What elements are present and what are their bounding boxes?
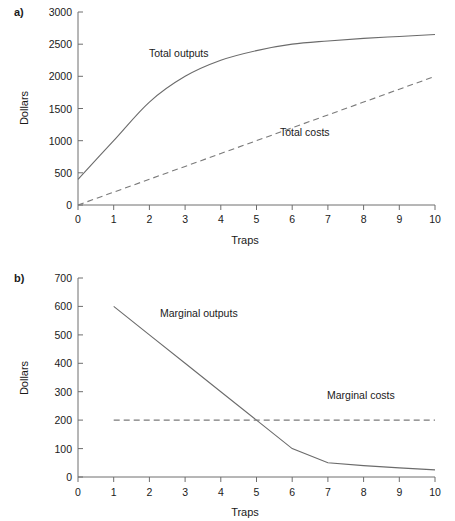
panel-a-xtick-0: 0 [75,213,81,225]
annotation-marginal-outputs: Marginal outputs [160,307,238,319]
panel-b-xtick-0: 0 [75,486,81,498]
panel-a-xtick-4: 4 [218,213,224,225]
panel-b-xtick-6: 6 [289,486,295,498]
panel-a-xtick-7: 7 [325,213,331,225]
panel-a-xtick-1: 1 [111,213,117,225]
panel-a-ytick-6: 0 [66,199,72,211]
panel-b-x-ticks [78,477,435,482]
panel-a-xtick-5: 5 [254,213,260,225]
panel-b-x-axis-title: Traps [231,506,259,518]
panel-a-xtick-10: 10 [429,213,441,225]
panel-b-ytick-6: 100 [54,443,72,455]
panel-b-xtick-9: 9 [396,486,402,498]
panel-a-xtick-8: 8 [361,213,367,225]
panel-b-xtick-7: 7 [325,486,331,498]
panel-b-y-axis-title: Dollars [18,360,30,395]
panel-b-ytick-4: 300 [54,386,72,398]
panel-b-ytick-1: 600 [54,300,72,312]
panel-b-x-tick-labels: 0 1 2 3 4 5 6 7 8 9 10 [75,486,441,498]
series-total-outputs [78,35,435,180]
panel-b-ytick-0: 700 [54,272,72,284]
chart-panel-a: a) 3000 2500 2000 1500 1000 [0,0,455,260]
panel-a-xtick-6: 6 [289,213,295,225]
panel-a-xtick-9: 9 [396,213,402,225]
figure-container: a) 3000 2500 2000 1500 1000 [0,0,455,521]
panel-a-x-tick-labels: 0 1 2 3 4 5 6 7 8 9 10 [75,213,441,225]
panel-b-xtick-8: 8 [361,486,367,498]
panel-b-ytick-5: 200 [54,414,72,426]
panel-b-y-tick-labels: 700 600 500 400 300 200 100 0 [54,272,72,483]
annotation-total-outputs: Total outputs [149,47,209,59]
panel-b-y-ticks [78,278,83,477]
panel-a-y-tick-labels: 3000 2500 2000 1500 1000 500 0 [49,6,73,211]
chart-panel-b: b) 700 600 500 400 300 [0,260,455,521]
panel-a-ytick-0: 3000 [49,6,73,18]
panel-a-plot: 3000 2500 2000 1500 1000 500 0 [0,0,455,260]
panel-b-xtick-3: 3 [182,486,188,498]
panel-b-xtick-5: 5 [254,486,260,498]
panel-b-ytick-3: 400 [54,357,72,369]
panel-a-ytick-3: 1500 [49,103,73,115]
annotation-total-costs: Total costs [280,126,330,138]
panel-b-plot: 700 600 500 400 300 200 100 0 [0,260,455,521]
panel-b-xtick-4: 4 [218,486,224,498]
panel-a-ytick-5: 500 [54,167,72,179]
panel-a-x-axis-title: Traps [231,234,259,246]
panel-b-xtick-2: 2 [146,486,152,498]
panel-a-x-ticks [78,205,435,210]
panel-b-xtick-10: 10 [429,486,441,498]
series-total-costs [78,76,435,205]
panel-a-xtick-3: 3 [182,213,188,225]
panel-a-ytick-2: 2000 [49,70,73,82]
panel-b-xtick-1: 1 [111,486,117,498]
panel-a-ytick-4: 1000 [49,135,73,147]
annotation-marginal-costs: Marginal costs [327,389,395,401]
panel-b-ytick-7: 0 [66,471,72,483]
panel-b-ytick-2: 500 [54,329,72,341]
panel-a-ytick-1: 2500 [49,38,73,50]
panel-a-y-axis-title: Dollars [18,90,30,125]
panel-a-xtick-2: 2 [146,213,152,225]
